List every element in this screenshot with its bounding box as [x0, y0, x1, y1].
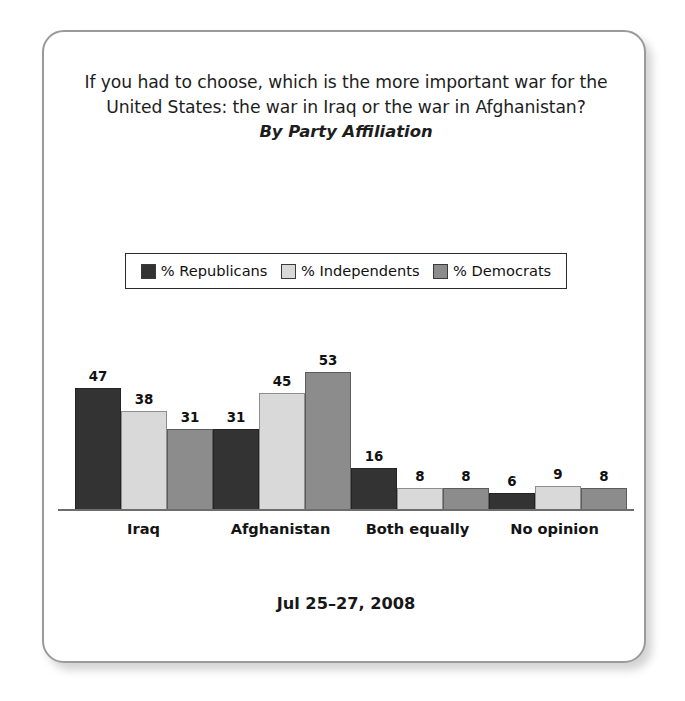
bar-item: 45: [259, 372, 305, 509]
bar-value-label: 38: [121, 393, 167, 406]
bar-group: 698: [489, 372, 627, 509]
bar: [259, 393, 305, 509]
category-axis-labels: IraqAfghanistanBoth equallyNo opinion: [75, 520, 623, 537]
category-label: No opinion: [486, 520, 623, 537]
bar-value-label: 47: [75, 370, 121, 383]
bar-value-label: 53: [305, 354, 351, 367]
category-label: Both equally: [349, 520, 486, 537]
bar-group: 314553: [213, 372, 351, 509]
bar-item: 31: [213, 372, 259, 509]
category-label: Afghanistan: [212, 520, 349, 537]
bar-value-label: 8: [443, 470, 489, 483]
category-label: Iraq: [75, 520, 212, 537]
chart-screenshot: If you had to choose, which is the more …: [0, 0, 685, 701]
bar: [305, 372, 351, 509]
bar: [121, 411, 167, 509]
bar-value-label: 8: [581, 470, 627, 483]
bar-item: 47: [75, 372, 121, 509]
bar-value-label: 8: [397, 470, 443, 483]
bar: [213, 429, 259, 509]
chart-card: If you had to choose, which is the more …: [42, 30, 646, 663]
bar: [351, 468, 397, 509]
bar-item: 53: [305, 372, 351, 509]
bar-item: 38: [121, 372, 167, 509]
bar: [75, 388, 121, 509]
bar-value-label: 31: [213, 411, 259, 424]
bar-item: 6: [489, 372, 535, 509]
bar-item: 31: [167, 372, 213, 509]
bar-groups: 4738313145531688698: [75, 372, 623, 509]
bar-group: 473831: [75, 372, 213, 509]
bar-value-label: 9: [535, 468, 581, 481]
bar: [581, 488, 627, 509]
plot-area: 4738313145531688698 IraqAfghanistanBoth …: [44, 32, 648, 665]
bar-item: 9: [535, 372, 581, 509]
bar-value-label: 31: [167, 411, 213, 424]
bar-value-label: 6: [489, 475, 535, 488]
bar-item: 16: [351, 372, 397, 509]
bar-item: 8: [443, 372, 489, 509]
bar: [535, 486, 581, 509]
bar-value-label: 16: [351, 450, 397, 463]
bar-group: 1688: [351, 372, 489, 509]
bar: [167, 429, 213, 509]
bar-value-label: 45: [259, 375, 305, 388]
footer-date: Jul 25–27, 2008: [72, 594, 620, 613]
bar-item: 8: [397, 372, 443, 509]
x-axis-line: [58, 509, 634, 511]
bar: [489, 493, 535, 509]
bar: [443, 488, 489, 509]
bar: [397, 488, 443, 509]
bar-item: 8: [581, 372, 627, 509]
